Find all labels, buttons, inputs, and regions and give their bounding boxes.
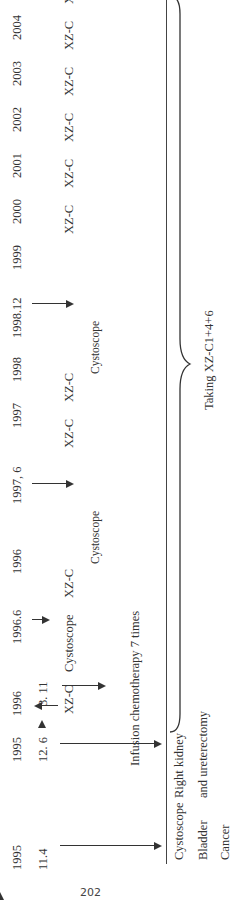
arrow-down-1996-6	[32, 619, 48, 620]
year-label: 1996	[10, 691, 24, 716]
infusion-chemotherapy: Infusion chemotherapy 7 times	[128, 611, 142, 766]
year-label: 1995	[10, 845, 24, 870]
brace	[168, 0, 192, 734]
year-label: 2000	[10, 199, 24, 224]
event-xzc: XZ-C	[62, 21, 76, 50]
cystoscope-1997: Cystoscope	[88, 511, 102, 564]
cystoscope-1998: Cystoscope	[88, 321, 102, 374]
bladder-label: Bladder	[196, 820, 210, 860]
event-xzc: XZ-C	[62, 159, 76, 188]
year-label: 1997	[10, 403, 24, 428]
year-label: 2004	[10, 15, 24, 40]
event-cystoscope: Cystoscope	[62, 614, 76, 672]
event-xzc: XZ-C	[62, 113, 76, 142]
event-xzc: XZ-C	[62, 67, 76, 96]
year-label: 1997, 6	[10, 467, 24, 505]
arrow-down-1995-11	[60, 845, 160, 846]
event-xzc: XZ-C	[62, 419, 76, 448]
year-label: 2003	[10, 61, 24, 86]
year-label: 1999	[10, 245, 24, 270]
right-kidney-label: Right kidney	[172, 733, 186, 798]
event-xzc: XZ-C	[62, 569, 76, 598]
arrow-up-1996-311	[36, 705, 58, 706]
brace-label: Taking XZ-C1+4+6	[202, 310, 216, 410]
cancer-label: Cancer	[218, 825, 232, 860]
timeline-axis	[166, 0, 167, 864]
event-xzc: XZ-C	[62, 685, 76, 714]
ureterectomy-label: and ureterectomy	[196, 711, 210, 798]
year-label: 1998.12	[10, 297, 24, 338]
year-label: 1996	[10, 549, 24, 574]
year-label: 1995	[10, 737, 24, 762]
event-xzc: XZ-C	[62, 373, 76, 402]
arrow-down-1997-6	[32, 483, 72, 484]
arrow-down-1995-12	[60, 743, 160, 744]
event-xzc: XZ-C	[62, 0, 76, 4]
year-label: 1996.6	[10, 610, 24, 644]
cystoscope-label: Cystoscope	[172, 802, 186, 860]
year-label: 2001	[10, 153, 24, 178]
arrow-down-1998-12	[32, 303, 72, 304]
date-label: 11.4	[36, 849, 50, 870]
year-label: 1998	[10, 357, 24, 382]
year-label: 2002	[10, 107, 24, 132]
date-label: 12. 6	[36, 737, 50, 762]
page-number: 202	[80, 886, 101, 899]
event-xzc: XZ-C	[62, 205, 76, 234]
